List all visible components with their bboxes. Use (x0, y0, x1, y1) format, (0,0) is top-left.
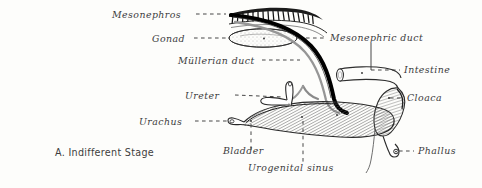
label-mesonephric-duct: Mesonephric duct (330, 33, 423, 42)
label-cloaca: Cloaca (407, 93, 442, 102)
label-intestine: Intestine (404, 65, 450, 74)
label-urogenital-sinus: Urogenital sinus (248, 163, 334, 172)
intestine-structure (337, 67, 401, 88)
label-mesonephros: Mesonephros (112, 10, 181, 19)
urogenital-diagram-figure: Mesonephros Gonad Müllerian duct Ureter … (0, 0, 482, 188)
bladder-urogenital-sinus-structure (228, 102, 394, 138)
label-phallus: Phallus (418, 146, 456, 155)
label-gonad: Gonad (152, 34, 185, 43)
label-bladder: Bladder (223, 146, 264, 155)
ureter-structure (261, 82, 293, 106)
label-mullerian-duct: Müllerian duct (178, 56, 255, 65)
leader-ureter (235, 95, 283, 97)
figure-caption: A. Indifferent Stage (55, 147, 154, 158)
label-urachus: Urachus (139, 117, 182, 126)
label-ureter: Ureter (185, 91, 219, 100)
